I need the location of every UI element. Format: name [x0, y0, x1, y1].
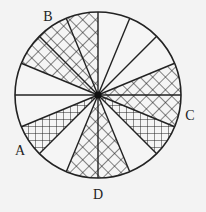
label-c: C — [185, 108, 194, 123]
circle-sector-figure: B C A D — [0, 0, 206, 212]
label-d: D — [93, 187, 103, 202]
center-hub — [95, 92, 102, 99]
label-b: B — [43, 9, 52, 24]
spinner-diagram: B C A D — [0, 0, 206, 212]
label-a: A — [15, 143, 26, 158]
